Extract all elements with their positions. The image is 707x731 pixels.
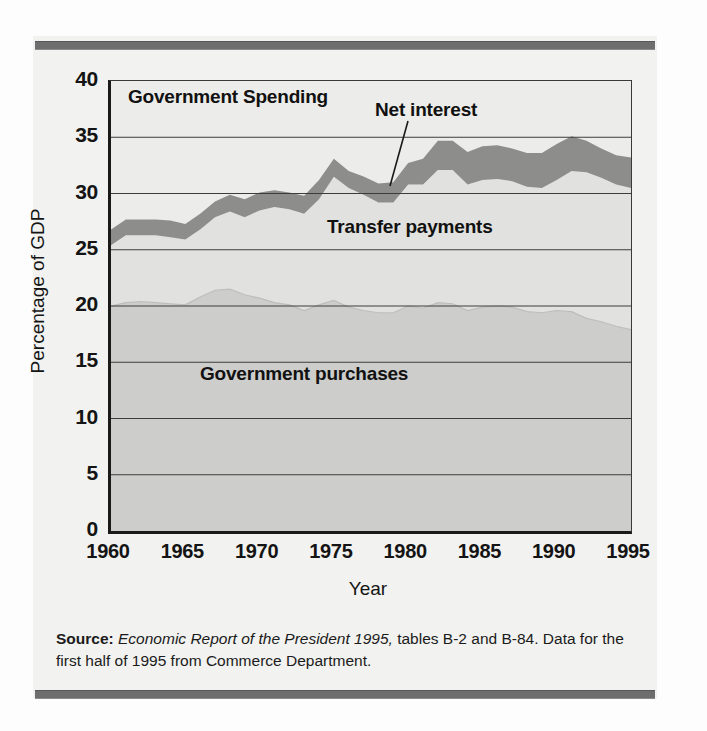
net-interest-label: Net interest — [375, 99, 477, 121]
x-tick-label: 1975 — [296, 540, 366, 563]
y-tick-label: 10 — [52, 405, 98, 429]
y-tick-label: 5 — [52, 461, 98, 485]
x-tick-label: 1985 — [444, 540, 514, 563]
x-axis-label: Year — [108, 578, 628, 600]
x-tick-label: 1990 — [519, 540, 589, 563]
source-note: Source: Economic Report of the President… — [56, 628, 626, 673]
chart-title: Government Spending — [128, 86, 328, 108]
source-title: Economic Report of the President 1995, — [118, 630, 393, 647]
figure-container: Percentage of GDP Year 4035302520151050 … — [0, 0, 707, 731]
source-label: Source: — [56, 630, 114, 647]
x-tick-label: 1980 — [370, 540, 440, 563]
x-tick-label: 1965 — [147, 540, 217, 563]
series-group — [111, 136, 631, 531]
y-tick-label: 30 — [52, 180, 98, 204]
plot-area — [108, 80, 632, 534]
stacked-area-chart — [111, 81, 631, 531]
transfer-payments-label: Transfer payments — [327, 216, 493, 238]
y-tick-label: 0 — [52, 517, 98, 541]
y-tick-label: 40 — [52, 67, 98, 91]
area-government-purchases — [111, 289, 631, 531]
government-purchases-label: Government purchases — [200, 363, 408, 385]
x-tick-label: 1970 — [222, 540, 292, 563]
plot-wrapper: Percentage of GDP Year 4035302520151050 … — [0, 0, 707, 731]
y-axis-label: Percentage of GDP — [27, 191, 49, 391]
x-tick-label: 1960 — [73, 540, 143, 563]
y-tick-label: 15 — [52, 348, 98, 372]
y-tick-label: 20 — [52, 292, 98, 316]
x-tick-label: 1995 — [593, 540, 663, 563]
y-tick-label: 25 — [52, 236, 98, 260]
y-tick-label: 35 — [52, 123, 98, 147]
